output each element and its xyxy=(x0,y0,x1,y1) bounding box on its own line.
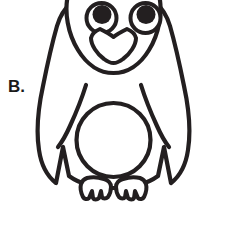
penguin-right-pupil xyxy=(137,5,156,24)
penguin-left-pupil xyxy=(93,5,112,24)
image-canvas: B. xyxy=(0,0,227,230)
penguin-right-foot xyxy=(116,177,146,199)
penguin-left-foot xyxy=(81,177,111,199)
penguin-figure xyxy=(0,0,227,230)
